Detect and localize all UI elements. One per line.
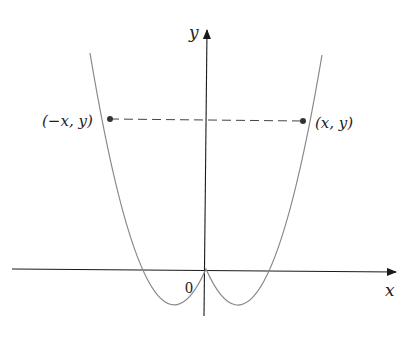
point-left xyxy=(107,116,113,122)
point-right xyxy=(300,118,306,124)
y-axis-label: y xyxy=(188,22,199,42)
point-right-label: (x, y) xyxy=(315,114,353,132)
origin-label: 0 xyxy=(185,279,193,296)
point-left-label: (−x, y) xyxy=(42,112,93,130)
even-function-diagram: y x 0 (−x, y) (x, y) xyxy=(0,0,407,344)
x-axis-label: x xyxy=(385,280,395,300)
